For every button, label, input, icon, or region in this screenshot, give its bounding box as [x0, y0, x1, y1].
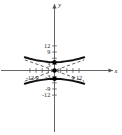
- y-tick-label: 3: [47, 61, 50, 68]
- x-axis-label: x: [114, 67, 118, 74]
- y-tick-label: -3: [45, 73, 50, 80]
- vertex-lower: [52, 77, 56, 81]
- center-point: [52, 68, 56, 72]
- vertex-upper: [52, 60, 56, 64]
- x-tick-label: 12: [76, 74, 82, 81]
- y-tick-label: -12: [42, 91, 50, 98]
- y-axis-label: y: [57, 1, 61, 8]
- axes-group: [1, 4, 113, 132]
- y-tick-label: 9: [47, 48, 50, 55]
- y-axis-arrowhead: [52, 4, 56, 9]
- x-tick-label: -9: [33, 74, 38, 81]
- hyperbola-graph-figure: -12-9912 1293-3-9-12 x y: [0, 0, 122, 135]
- x-axis-arrowhead: [109, 68, 114, 72]
- coordinate-plane-svg: -12-9912 1293-3-9-12 x y: [0, 0, 122, 135]
- x-tick-label: 9: [71, 74, 74, 81]
- marked-points-group: [52, 60, 56, 81]
